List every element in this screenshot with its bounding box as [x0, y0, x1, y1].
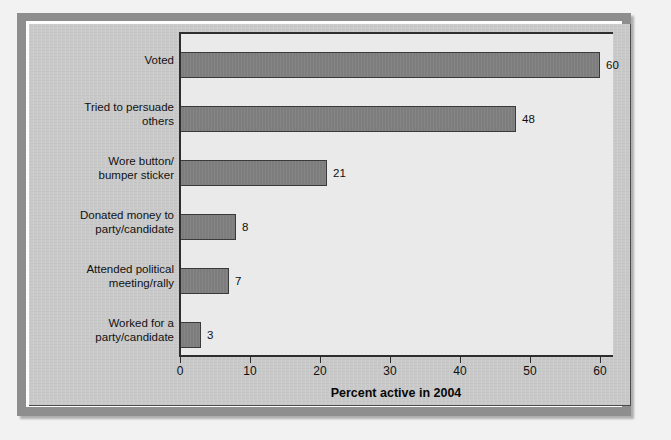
bar[interactable]: [180, 322, 201, 348]
x-tick-mark: [390, 357, 391, 363]
bar-value-label: 60: [606, 52, 619, 78]
bar-value-label: 7: [235, 268, 241, 294]
x-tick-label: 50: [515, 364, 545, 378]
bar-row: Wore button/ bumper sticker 21: [29, 146, 630, 200]
figure-page: Voted 60 Tried to persuade others 48 Wor…: [0, 0, 671, 440]
bar-row: Donated money to party/candidate 8: [29, 200, 630, 254]
bar-row: Voted 60: [29, 38, 630, 92]
x-tick-label: 40: [445, 364, 475, 378]
bar-row: Tried to persuade others 48: [29, 92, 630, 146]
x-tick-mark: [250, 357, 251, 363]
chart-card: Voted 60 Tried to persuade others 48 Wor…: [29, 24, 631, 406]
category-label: Wore button/ bumper sticker: [34, 155, 174, 182]
x-tick-mark: [530, 357, 531, 363]
x-tick-label: 60: [585, 364, 615, 378]
x-tick-mark: [460, 357, 461, 363]
x-axis-line: [179, 355, 613, 357]
bar[interactable]: [180, 52, 600, 78]
bar[interactable]: [180, 268, 229, 294]
x-tick-mark: [320, 357, 321, 363]
bar-row: Worked for a party/candidate 3: [29, 308, 630, 362]
bar-value-label: 48: [522, 106, 535, 132]
category-label: Attended political meeting/rally: [34, 263, 174, 290]
bar[interactable]: [180, 160, 327, 186]
x-tick-label: 30: [375, 364, 405, 378]
x-tick-mark: [180, 357, 181, 363]
x-tick-label: 0: [165, 364, 195, 378]
x-tick-mark: [600, 357, 601, 363]
bar-value-label: 3: [207, 322, 213, 348]
category-label: Voted: [34, 54, 174, 68]
bar-value-label: 21: [333, 160, 346, 186]
x-tick-label: 10: [235, 364, 265, 378]
category-label: Donated money to party/candidate: [34, 209, 174, 236]
bar[interactable]: [180, 106, 516, 132]
category-label: Worked for a party/candidate: [34, 317, 174, 344]
category-label: Tried to persuade others: [34, 101, 174, 128]
x-axis-title: Percent active in 2004: [179, 386, 613, 400]
bar-value-label: 8: [242, 214, 248, 240]
bar-row: Attended political meeting/rally 7: [29, 254, 630, 308]
bar[interactable]: [180, 214, 236, 240]
x-tick-label: 20: [305, 364, 335, 378]
y-axis-line: [179, 32, 181, 357]
